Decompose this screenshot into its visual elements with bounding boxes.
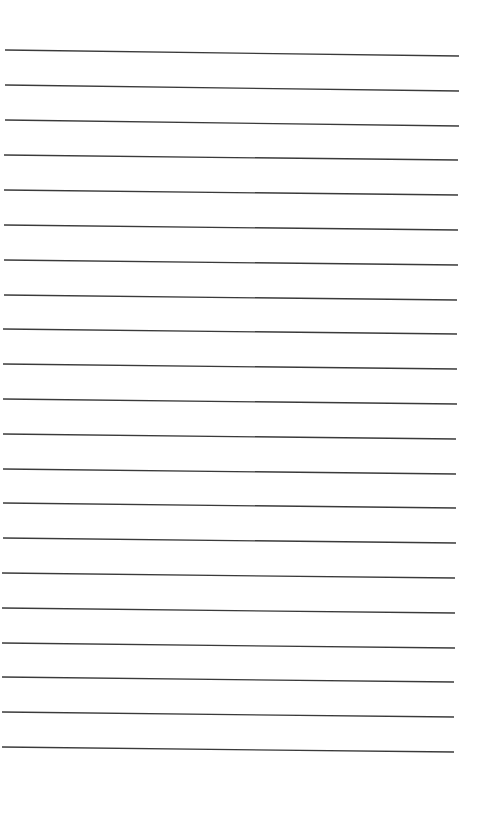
ruled-line <box>5 85 459 91</box>
ruled-line <box>4 225 458 230</box>
ruled-line <box>2 677 454 682</box>
ruled-line <box>3 434 456 439</box>
ruled-line <box>3 329 457 334</box>
ruled-line <box>2 608 455 613</box>
ruled-line <box>4 295 457 300</box>
ruled-lines <box>0 0 484 828</box>
ruled-line <box>4 190 458 195</box>
ruled-line <box>5 50 459 56</box>
ruled-line <box>5 120 459 126</box>
ruled-line <box>2 573 455 578</box>
ruled-line <box>3 364 457 369</box>
ruled-line <box>4 260 458 265</box>
ruled-line <box>3 503 456 508</box>
ruled-line <box>4 155 458 160</box>
ruled-line <box>2 712 454 717</box>
ruled-line <box>2 643 455 648</box>
ruled-line <box>3 399 457 404</box>
lined-paper-page <box>0 0 484 828</box>
ruled-line <box>3 469 456 474</box>
ruled-line <box>3 538 456 543</box>
ruled-line <box>2 747 454 752</box>
